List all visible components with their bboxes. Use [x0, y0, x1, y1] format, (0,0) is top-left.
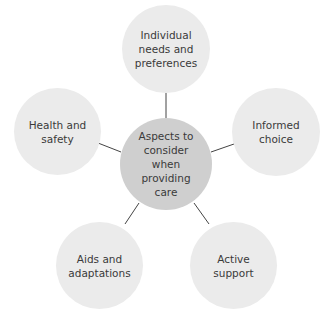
node-label: Informed choice [252, 118, 299, 146]
node-label: Health and safety [29, 118, 87, 146]
connector-bottom-right [194, 203, 209, 224]
node-label: Individual needs and preferences [135, 28, 197, 70]
connector-left [98, 143, 121, 152]
node-label: Aids and adaptations [68, 252, 130, 280]
mind-map-diagram: Individual needs and preferences Informe… [0, 0, 326, 320]
connector-right [211, 144, 234, 152]
node-aids-and-adaptations: Aids and adaptations [56, 222, 143, 309]
node-informed-choice: Informed choice [232, 88, 320, 176]
node-center-aspects: Aspects to consider when providing care [120, 118, 212, 210]
node-active-support: Active support [190, 222, 277, 309]
center-label: Aspects to consider when providing care [128, 129, 204, 199]
node-label: Active support [213, 252, 253, 280]
node-health-and-safety: Health and safety [14, 88, 101, 175]
connector-bottom-left [125, 203, 139, 224]
node-individual-needs: Individual needs and preferences [122, 5, 210, 93]
